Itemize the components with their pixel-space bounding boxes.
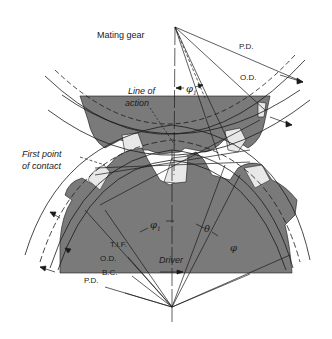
phi1-bottom-subscript: 1 <box>157 225 161 232</box>
phi1-bottom-glyph: φ <box>150 219 157 230</box>
phi-symbol: φ <box>230 243 237 253</box>
theta-symbol: θ <box>204 224 210 234</box>
gear-mesh-diagram: Mating gear P.D. O.D. Line of action φ1 … <box>0 0 332 339</box>
bottom-outside-diameter-label: O.D. <box>100 255 116 263</box>
first-point-label-1: First point <box>22 150 62 159</box>
first-point-label-2: of contact <box>22 162 61 171</box>
phi1-bottom-symbol: φ1 <box>150 220 161 232</box>
phi1-top-glyph: φ <box>186 83 193 94</box>
top-outside-diameter-label: O.D. <box>240 74 256 82</box>
mating-gear-label: Mating gear <box>97 31 145 40</box>
bottom-pitch-diameter-label: P.D. <box>84 277 99 285</box>
phi1-top-subscript: 1 <box>193 89 197 96</box>
line-of-action-label-2: action <box>125 99 149 108</box>
driver-label: Driver <box>159 256 183 265</box>
top-pitch-diameter-label: P.D. <box>239 43 254 51</box>
line-of-action-label-1: Line of <box>128 87 155 96</box>
phi1-top-symbol: φ1 <box>186 84 197 96</box>
tif-label: T.I.F. <box>110 241 127 249</box>
base-circle-label: B.C. <box>102 269 118 277</box>
